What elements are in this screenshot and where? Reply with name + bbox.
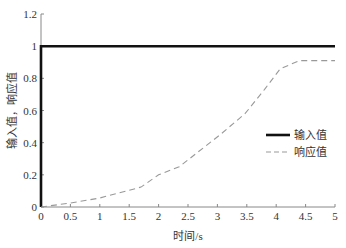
x-tick-label: 4 [273, 210, 279, 222]
x-tick-label: 1 [97, 210, 103, 222]
y-tick-label: 0.2 [23, 169, 37, 181]
legend-label: 输入值 [294, 128, 327, 141]
y-tick-label: 0 [32, 201, 38, 213]
y-tick-label: 1.2 [23, 8, 37, 20]
response-line [41, 61, 335, 207]
axes: 00.511.522.533.544.5500.20.40.60.811.2 [23, 8, 338, 222]
x-tick-label: 3.5 [240, 210, 254, 222]
y-axis-label: 输入值，响应值 [5, 72, 18, 149]
x-tick-label: 2 [156, 210, 162, 222]
x-tick-label: 0 [38, 210, 44, 222]
y-tick-label: 1 [32, 40, 38, 52]
x-tick-label: 3 [215, 210, 221, 222]
input-line [41, 46, 335, 207]
legend-label: 响应值 [294, 145, 327, 158]
y-tick-label: 0.4 [23, 137, 37, 149]
legend: 输入值响应值 [266, 128, 327, 158]
x-axis-label: 时间/s [173, 230, 202, 242]
x-tick-label: 4.5 [299, 210, 313, 222]
x-tick-label: 2.5 [181, 210, 195, 222]
y-tick-label: 0.8 [23, 72, 37, 84]
y-tick-label: 0.6 [23, 105, 37, 117]
x-tick-label: 5 [332, 210, 338, 222]
step-response-chart: 00.511.522.533.544.5500.20.40.60.811.2 输… [0, 0, 346, 248]
series-lines [41, 46, 335, 207]
x-tick-label: 0.5 [64, 210, 78, 222]
x-tick-label: 1.5 [122, 210, 136, 222]
